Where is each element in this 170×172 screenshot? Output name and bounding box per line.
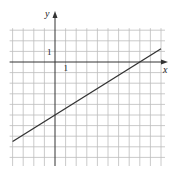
coordinate-plane: x y 1 1 xyxy=(0,0,170,172)
y-axis-label: y xyxy=(44,8,50,19)
x-axis-label: x xyxy=(162,64,168,75)
axes xyxy=(10,11,168,166)
x-tick-label: 1 xyxy=(64,63,69,73)
y-tick-label: 1 xyxy=(47,47,52,57)
grid-lines xyxy=(10,28,165,166)
